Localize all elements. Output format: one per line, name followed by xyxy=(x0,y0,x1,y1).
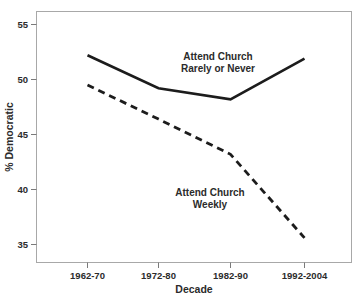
y-axis-ticks xyxy=(31,25,37,245)
x-tick-label-1982-90: 1982-90 xyxy=(213,270,248,281)
annotation-weekly-line2: Weekly xyxy=(193,199,228,210)
plot-area-frame xyxy=(37,12,352,263)
x-axis-title: Decade xyxy=(175,283,213,295)
annotation-rarely-or-never: Attend Church Rarely or Never xyxy=(181,51,255,74)
chart-container: 55 50 45 40 35 % Democratic 1962-70 1972… xyxy=(0,0,362,297)
y-axis-tick-labels: 55 50 45 40 35 xyxy=(17,19,28,250)
x-tick-label-1972-80: 1972-80 xyxy=(141,270,176,281)
y-tick-label-50: 50 xyxy=(17,74,28,85)
y-axis-title: % Democratic xyxy=(3,102,15,172)
y-tick-label-35: 35 xyxy=(17,239,28,250)
x-axis-ticks xyxy=(88,263,305,269)
y-tick-label-40: 40 xyxy=(17,184,28,195)
line-chart: 55 50 45 40 35 % Democratic 1962-70 1972… xyxy=(0,0,362,297)
annotation-weekly-line1: Attend Church xyxy=(175,187,244,198)
x-axis-tick-labels: 1962-70 1972-80 1982-90 1992-2004 xyxy=(70,270,328,281)
y-tick-label-55: 55 xyxy=(17,19,28,30)
x-tick-label-1962-70: 1962-70 xyxy=(70,270,105,281)
annotation-rarely-or-never-line2: Rarely or Never xyxy=(181,63,255,74)
x-tick-label-1992-2004: 1992-2004 xyxy=(282,270,328,281)
y-tick-label-45: 45 xyxy=(17,129,28,140)
annotation-rarely-or-never-line1: Attend Church xyxy=(183,51,252,62)
